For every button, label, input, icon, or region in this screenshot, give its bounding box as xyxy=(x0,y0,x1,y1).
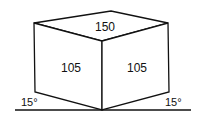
left-angle-label: 15° xyxy=(21,96,38,108)
left-face-label: 105 xyxy=(61,61,81,75)
right-face-label: 105 xyxy=(127,61,147,75)
cube-drawing: 150 105 105 15° 15° xyxy=(0,0,201,118)
right-angle-label: 15° xyxy=(165,96,182,108)
top-face-label: 150 xyxy=(95,20,115,34)
cube-diagram: 150 105 105 15° 15° xyxy=(0,0,201,118)
